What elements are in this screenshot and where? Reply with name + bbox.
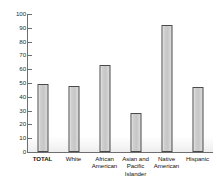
- y-axis-tick-label: 40: [2, 94, 26, 100]
- bar: [192, 87, 203, 152]
- bar-slot: [120, 14, 151, 152]
- y-axis-tick-label: 50: [2, 80, 26, 86]
- x-axis-category-label-line: Hispanic: [177, 155, 217, 162]
- y-axis-tick-label: 90: [2, 25, 26, 31]
- bar: [37, 84, 48, 152]
- bar-slot: [182, 14, 213, 152]
- y-axis-tick-label: 80: [2, 39, 26, 45]
- bar-slot: [58, 14, 89, 152]
- x-axis-category-label-line: Islander: [115, 170, 157, 177]
- bar: [99, 65, 110, 152]
- bar-chart: 0102030405060708090100 TOTALWhiteAfrican…: [0, 0, 216, 183]
- bar: [68, 86, 79, 152]
- y-axis-tick-label: 100: [2, 11, 26, 17]
- y-axis-tick-label: 70: [2, 52, 26, 58]
- x-axis-line: [27, 152, 213, 153]
- y-axis-tick: [28, 152, 32, 153]
- bar-slot: [151, 14, 182, 152]
- bar-slot: [89, 14, 120, 152]
- x-axis-category-label-line: American: [146, 162, 188, 169]
- bar: [130, 113, 141, 152]
- y-axis-tick-label: 60: [2, 66, 26, 72]
- bars-layer: [27, 14, 213, 152]
- y-axis-tick-label: 10: [2, 135, 26, 141]
- y-axis-tick-label: 20: [2, 121, 26, 127]
- y-axis-tick-label: 30: [2, 108, 26, 114]
- x-axis-category-label: Hispanic: [177, 155, 217, 162]
- bar-slot: [27, 14, 58, 152]
- bar: [161, 25, 172, 152]
